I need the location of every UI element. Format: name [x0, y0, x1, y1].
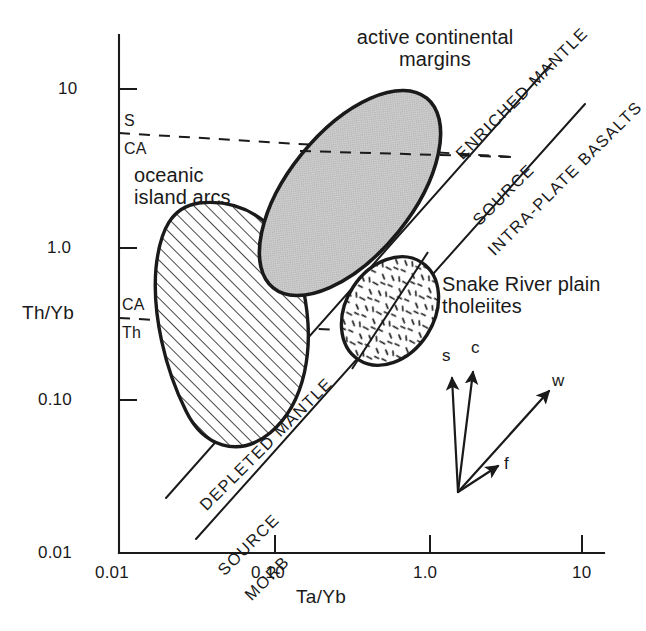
vector-label-c: c [471, 338, 480, 357]
y-tick-1: 1.0 [47, 238, 71, 257]
vector-arrow-w [458, 391, 549, 492]
vector-label-f: f [504, 454, 509, 473]
x-tick-1-0: 1.0 [413, 563, 437, 582]
vector-label-w: w [552, 371, 564, 390]
vector-label-s: s [442, 346, 451, 365]
series-boundary-label-ca: CA [124, 140, 147, 158]
vector-arrow-c [458, 372, 473, 492]
series-boundary-label-th: Th [122, 324, 141, 342]
field-label-snake-river-plain-tholeiites: Snake River plain tholeiites [442, 273, 600, 318]
field-label-oceanic-island-arcs: oceanic island arcs [134, 164, 231, 209]
x-tick-10: 10 [572, 563, 591, 582]
series-boundary-label-ca-2: CA [122, 296, 145, 314]
series-boundary-label-s: S [124, 112, 135, 130]
y-tick-10: 10 [58, 79, 77, 98]
x-tick-0-01: 0.01 [95, 563, 129, 582]
vector-arrows [452, 372, 549, 492]
y-tick-0-10: 0.10 [38, 390, 72, 409]
y-tick-0-01: 0.01 [38, 543, 72, 562]
field-label-active-continental-margins: active continental margins [330, 26, 540, 71]
y-axis-title: Th/Yb [22, 302, 74, 323]
x-axis-title: Ta/Yb [296, 586, 346, 607]
vector-arrow-s [452, 378, 458, 492]
